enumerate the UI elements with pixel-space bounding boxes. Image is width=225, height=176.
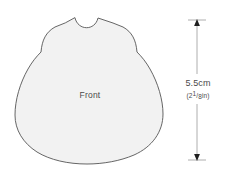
dimension-label-metric: 5.5cm [172, 78, 224, 88]
dimension-imperial-close: in) [202, 92, 210, 99]
pattern-diagram-svg [0, 0, 225, 176]
garment-front-label: Front [60, 90, 120, 100]
dimension-label-imperial: (21/8in) [172, 91, 224, 100]
pattern-diagram-screenshot: Front 5.5cm (21/8in) [0, 0, 225, 176]
